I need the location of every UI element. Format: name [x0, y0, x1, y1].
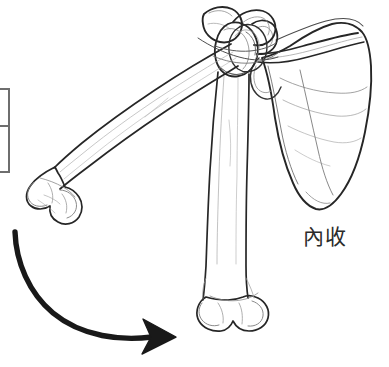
adduction-label: 內收 [303, 224, 347, 250]
scapula-inferior-angle-detail [306, 192, 330, 203]
humerus-shaft-abducted-upper [54, 44, 231, 168]
medial-epicondyle-abducted [28, 182, 47, 206]
humerus-shaft-adducted-left [203, 72, 218, 300]
infraspinous-fossa-line-1 [280, 78, 367, 93]
humerus-shaft-abducted-lower [60, 66, 238, 189]
adduction-motion-arrow [15, 232, 176, 354]
scapular-spine [257, 33, 358, 54]
lateral-epicondyle-adducted [248, 301, 263, 326]
capitulum-abducted [62, 194, 67, 213]
scapula-lateral-border-ridge [300, 70, 333, 195]
trochlea-adducted [218, 303, 223, 323]
clavicle-shading-1 [209, 11, 232, 16]
scapular-spine-shading [264, 37, 362, 58]
capitulum-adducted [239, 303, 242, 324]
humerus-shaft-adducted-right [246, 74, 249, 298]
humeral-head-abducted [229, 25, 267, 72]
infraspinous-fossa-line-4 [295, 150, 330, 166]
motion-arrow-shaft [15, 232, 152, 338]
humerus-shaft-adducted-shade-1 [217, 76, 224, 264]
infraspinous-fossa-line-2 [283, 100, 366, 116]
humerus-shaft-adducted-shade-2 [236, 78, 238, 264]
deltoid-tuberosity-abducted [145, 98, 168, 117]
clavicle-group [203, 7, 242, 42]
deltoid-tuberosity-adducted [229, 120, 231, 166]
trochlea-abducted [48, 183, 53, 203]
figure-page: 內收 [0, 0, 389, 367]
infraspinous-fossa-line-3 [288, 126, 361, 143]
humerus-shaft-abducted-shade-1 [60, 52, 233, 172]
shoulder-adduction-illustration [0, 0, 389, 367]
medial-epicondyle-adducted [199, 303, 219, 326]
